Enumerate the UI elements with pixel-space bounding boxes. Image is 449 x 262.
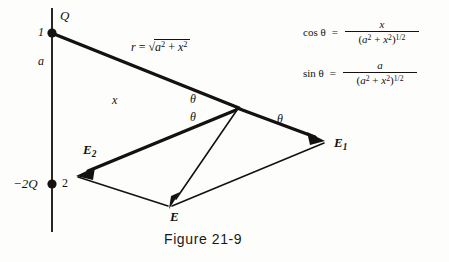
cos-theta-formula: cos θ = x (a2 + x2)1/2 [303,18,419,45]
E2-label: E2 [83,143,96,159]
sin-den-plus: + [372,74,378,86]
distance-a-label: a [38,55,44,67]
sin-theta-equals: = [330,67,336,79]
sin-den-outer-exponent: 1/2 [394,74,404,83]
sin-den-a-exponent: 2 [366,74,370,83]
parallelogram-side-left [78,177,168,206]
charge-1-number-label: 1 [38,26,44,38]
cos-den-outer-exponent: 1/2 [396,33,406,42]
charge-2-number-label: 2 [62,177,68,189]
charge-2-minus-2Q-label: −2Q [13,177,38,190]
sin-theta-formula: sin θ = a (a2 + x2)1/2 [303,59,417,86]
charge-2-dot [47,179,56,188]
sin-theta-numerator: a [369,59,391,72]
E1-subscript: 1 [343,142,348,152]
cos-den-a-exponent: 2 [368,33,372,42]
cos-theta-numerator: x [371,18,392,31]
E-resultant-label: E [170,210,179,223]
parallelogram-side-right [172,143,324,206]
radicand-x-exponent: 2 [183,40,187,49]
E2-base: E [83,142,92,157]
x-axis-label: x [112,94,117,106]
radical-expression: √a2 + x2 [148,41,189,53]
radicand: a2 + x2 [154,39,189,54]
r-equation-label: r = √a2 + x2 [131,41,190,53]
E1-label: E1 [334,136,347,152]
theta-lower-left-label: θ [190,111,196,123]
r-symbol: r [131,40,136,54]
cos-theta-equals: = [332,26,338,38]
E2-subscript: 2 [92,149,97,159]
theta-upper-left-label: θ [190,93,196,105]
cos-theta-lhs: cos θ [303,26,326,38]
sin-theta-denominator: (a2 + x2)1/2 [355,73,406,86]
E2-vector-shaft [88,110,236,171]
figure-caption: Figure 21-9 [164,231,242,247]
radicand-a-exponent: 2 [161,40,165,49]
E1-vector-shaft [237,108,315,137]
theta-right-label: θ [277,113,283,125]
radicand-plus: + [168,40,175,54]
sin-theta-fraction: a (a2 + x2)1/2 [343,59,417,86]
cos-theta-fraction: x (a2 + x2)1/2 [345,18,419,45]
cos-den-plus: + [374,33,380,45]
figure-container: 1 Q a −2Q 2 x θ θ θ E1 E2 E r = √a2 + x2… [0,0,449,262]
cos-theta-denominator: (a2 + x2)1/2 [356,32,407,45]
sin-theta-lhs: sin θ [303,67,324,79]
r-equals-sign: = [139,40,146,54]
E1-base: E [334,135,343,150]
charge-1-Q-label: Q [60,9,69,22]
